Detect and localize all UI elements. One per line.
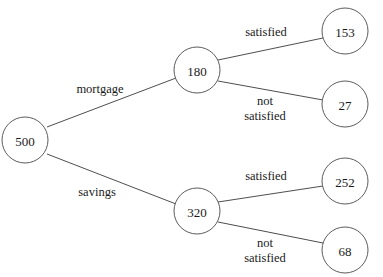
node-savings-not-satisfied-label: 68: [339, 244, 352, 259]
node-savings[interactable]: 320: [174, 188, 220, 234]
node-mortgage[interactable]: 180: [174, 47, 220, 93]
edge-mortgage-to-satisfied: [218, 38, 323, 60]
node-savings-satisfied-label: 252: [335, 175, 355, 190]
node-mortgage-not-satisfied-label: 27: [339, 98, 353, 113]
node-mortgage-satisfied-label: 153: [335, 25, 355, 40]
node-savings-satisfied[interactable]: 252: [322, 158, 368, 204]
edge-label-satisfied-lower: satisfied: [245, 169, 287, 183]
edge-label-not-lower: not: [257, 236, 274, 250]
node-savings-label: 320: [187, 205, 207, 220]
node-mortgage-satisfied[interactable]: 153: [322, 8, 368, 54]
node-root-label: 500: [15, 134, 35, 149]
tree-diagram-canvas: 500 180 320 153 27 252: [0, 0, 383, 277]
edge-label-satisfied-upper: satisfied: [245, 25, 287, 39]
node-mortgage-label: 180: [187, 64, 207, 79]
edge-label-not-upper: not: [257, 94, 274, 108]
probability-tree-diagram: 500 180 320 153 27 252: [0, 0, 383, 277]
node-group: 500 180 320 153 27 252: [2, 8, 368, 273]
node-mortgage-not-satisfied[interactable]: 27: [322, 81, 368, 127]
node-savings-not-satisfied[interactable]: 68: [322, 227, 368, 273]
edge-label-satisfied-lower-second-line: satisfied: [244, 251, 286, 265]
node-root[interactable]: 500: [2, 117, 48, 163]
edge-label-satisfied-upper-second-line: satisfied: [244, 109, 286, 123]
edge-savings-to-satisfied: [218, 186, 323, 202]
edge-label-savings: savings: [78, 185, 116, 199]
edge-label-mortgage: mortgage: [76, 82, 124, 96]
